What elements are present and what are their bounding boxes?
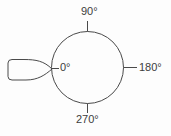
zero-degree-lobe-shape xyxy=(8,60,52,81)
angle-label-0: 0° xyxy=(60,62,71,73)
angle-label-90: 90° xyxy=(81,6,98,17)
angular-diagram-figure: 90° 180° 270° 0° xyxy=(0,0,171,136)
angle-label-180: 180° xyxy=(139,62,162,73)
angle-label-270: 270° xyxy=(76,114,99,125)
